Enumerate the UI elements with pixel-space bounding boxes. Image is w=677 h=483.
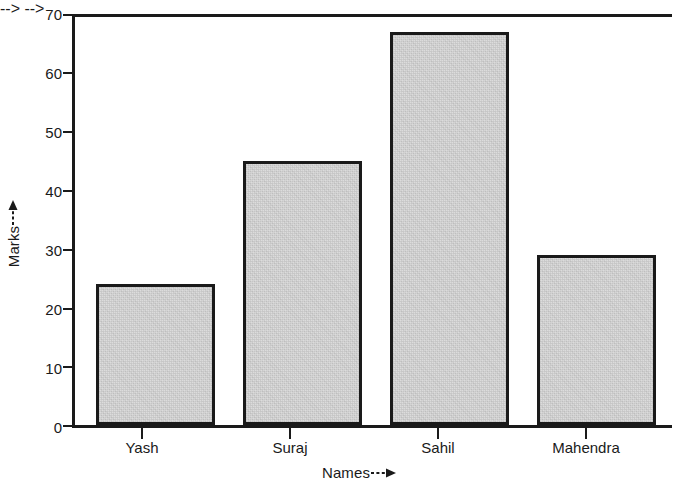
x-axis-title: Names (0, 462, 677, 483)
y-tick-mark (63, 249, 73, 251)
x-tick-mark (585, 428, 587, 439)
x-axis-arrow-icon (371, 467, 397, 479)
y-tick-mark (63, 366, 73, 368)
bar-chart: --> Marks 70 60 50 40 30 20 10 0 (0, 0, 677, 483)
y-tick-mark (63, 14, 73, 16)
y-tick-label: 0 (18, 420, 62, 435)
bar-mahendra (537, 255, 656, 425)
y-tick-mark (63, 131, 73, 133)
x-tick-label-suraj: Suraj (272, 440, 307, 455)
y-tick-label: 20 (18, 302, 62, 317)
y-tick-label: 40 (18, 184, 62, 199)
bar-yash (96, 284, 215, 425)
y-tick-label: 30 (18, 243, 62, 258)
plot-area (72, 14, 672, 428)
y-tick-mark (63, 72, 73, 74)
x-axis-title-text: Names (322, 465, 370, 480)
y-tick-label: 60 (18, 66, 62, 81)
y-tick-mark (63, 425, 73, 427)
y-axis-tick-labels: 70 60 50 40 30 20 10 0 (14, 0, 62, 483)
y-tick-label: 50 (18, 125, 62, 140)
y-tick-label: 10 (18, 361, 62, 376)
bar-suraj (243, 161, 362, 425)
x-tick-mark (289, 428, 291, 439)
x-tick-label-sahil: Sahil (421, 440, 454, 455)
x-tick-label-yash: Yash (125, 440, 158, 455)
y-tick-mark (63, 308, 73, 310)
plot-frame-top (72, 14, 672, 17)
x-tick-mark (437, 428, 439, 439)
x-axis-tick-labels: Yash Suraj Sahil Mahendra (0, 440, 677, 462)
bar-sahil (390, 32, 509, 425)
x-tick-mark (141, 428, 143, 439)
x-tick-label-mahendra: Mahendra (552, 440, 620, 455)
y-tick-label: 70 (18, 7, 62, 22)
x-axis-line (72, 425, 672, 428)
y-tick-mark (63, 190, 73, 192)
